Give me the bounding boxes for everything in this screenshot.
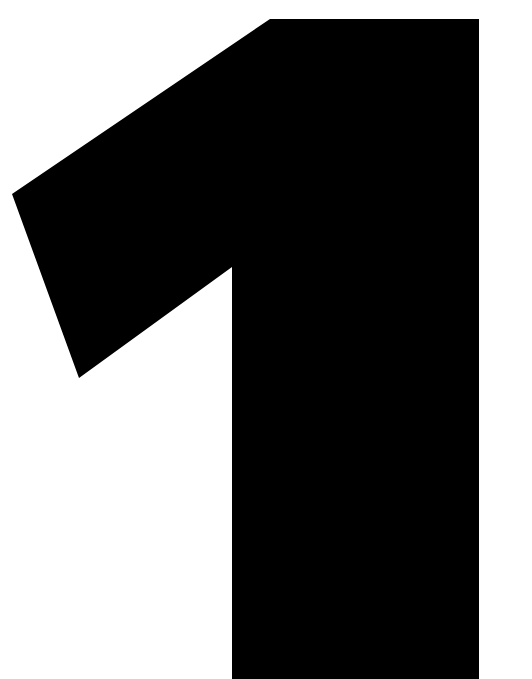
numeral-one-shape (0, 0, 532, 679)
